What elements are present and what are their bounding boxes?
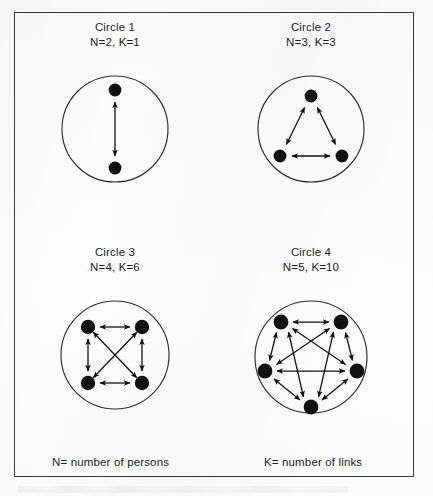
node-4-1 (334, 315, 349, 330)
panel-2-stats: N=3, K=3 (218, 35, 404, 50)
link-2-0-2 (317, 108, 335, 145)
node-2-1 (274, 150, 287, 163)
node-4-3 (350, 364, 365, 379)
panel-1-heading: Circle 1 N=2, K=1 (22, 20, 208, 50)
panel-3-title: Circle 3 (22, 245, 208, 260)
link-4-0-2 (270, 333, 277, 361)
node-1-0 (109, 84, 122, 97)
panel-3-graph (22, 277, 208, 445)
node-4-4 (304, 400, 319, 415)
link-4-1-4 (319, 332, 334, 397)
panel-1-stats: N=2, K=1 (22, 35, 208, 50)
link-4-1-2 (277, 329, 330, 365)
panel-4-title: Circle 4 (218, 245, 404, 260)
panel-circle-1: Circle 1 N=2, K=1 (22, 20, 208, 220)
link-4-0-4 (289, 332, 304, 397)
node-3-3 (135, 376, 149, 390)
node-4-0 (274, 315, 289, 330)
link-4-3-4 (322, 379, 348, 400)
link-2-0-1 (286, 108, 304, 145)
node-3-0 (81, 320, 95, 334)
node-1-1 (109, 162, 122, 175)
node-3-1 (135, 320, 149, 334)
panel-3-heading: Circle 3 N=4, K=6 (22, 245, 208, 275)
node-2-2 (336, 150, 349, 163)
node-3-2 (81, 376, 95, 390)
node-2-0 (305, 90, 318, 103)
node-4-2 (258, 364, 273, 379)
legend-k-definition: K= number of links (264, 455, 362, 470)
panel-2-title: Circle 2 (218, 20, 404, 35)
panel-1-graph (22, 52, 208, 220)
panel-circle-3: Circle 3 N=4, K=6 (22, 245, 208, 445)
panel-circle-4: Circle 4 N=5, K=10 (218, 245, 404, 445)
legend-n-definition: N= number of persons (52, 455, 169, 470)
panel-1-title: Circle 1 (22, 20, 208, 35)
scan-bleed-artifact (18, 486, 348, 493)
boundary-circle-4 (255, 301, 367, 413)
panel-2-graph (218, 52, 404, 220)
panel-2-heading: Circle 2 N=3, K=3 (218, 20, 404, 50)
panel-3-stats: N=4, K=6 (22, 260, 208, 275)
link-4-0-3 (293, 329, 346, 365)
panel-4-stats: N=5, K=10 (218, 260, 404, 275)
panel-4-graph (218, 277, 404, 445)
figure-root: Circle 1 N=2, K=1 Ci (0, 0, 433, 496)
panel-4-heading: Circle 4 N=5, K=10 (218, 245, 404, 275)
panel-circle-2: Circle 2 N=3, K=3 (218, 20, 404, 220)
link-4-2-4 (274, 379, 300, 400)
link-4-1-3 (346, 333, 353, 361)
